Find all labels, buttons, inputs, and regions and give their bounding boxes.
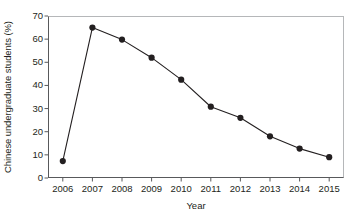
data-line xyxy=(63,28,329,162)
data-point xyxy=(149,55,155,61)
y-tick-label: 40 xyxy=(9,80,43,90)
data-point xyxy=(326,154,332,160)
data-point xyxy=(89,24,95,30)
data-point xyxy=(297,146,303,152)
y-tick-label: 50 xyxy=(9,57,43,67)
x-tick-label: 2015 xyxy=(309,184,349,194)
data-point xyxy=(208,104,214,110)
y-tick-label: 30 xyxy=(9,104,43,114)
y-tick-label: 0 xyxy=(9,173,43,183)
y-axis-tick-marks xyxy=(45,16,49,178)
data-point xyxy=(178,77,184,83)
data-point xyxy=(119,37,125,43)
x-axis-tick-marks xyxy=(63,178,329,182)
y-tick-label: 60 xyxy=(9,34,43,44)
data-point xyxy=(237,115,243,121)
chart-figure: Chinese undergraduate students (%) 01020… xyxy=(0,0,352,221)
data-point xyxy=(267,133,273,139)
x-axis-title: Year xyxy=(48,200,344,212)
y-tick-label: 20 xyxy=(9,127,43,137)
data-point xyxy=(60,158,66,164)
y-tick-label: 70 xyxy=(9,11,43,21)
data-point-markers xyxy=(60,24,333,164)
y-tick-label: 10 xyxy=(9,150,43,160)
